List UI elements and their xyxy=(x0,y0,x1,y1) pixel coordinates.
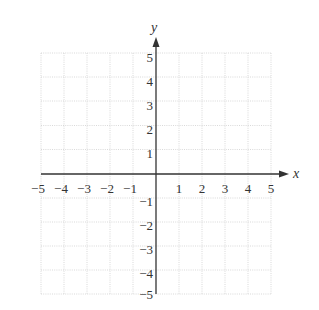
x-axis-arrow-icon xyxy=(279,171,289,178)
x-tick: 5 xyxy=(268,181,275,196)
y-tick: 2 xyxy=(147,122,154,137)
y-axis-label: y xyxy=(149,20,158,35)
x-tick: −4 xyxy=(54,181,68,196)
x-tick: −2 xyxy=(100,181,114,196)
y-axis-arrow-icon xyxy=(153,37,160,47)
x-tick: −1 xyxy=(123,181,137,196)
x-tick: 4 xyxy=(245,181,252,196)
y-tick: −4 xyxy=(139,266,153,281)
x-axis-label: x xyxy=(292,166,300,181)
y-tick-labels: 5 4 3 2 1 −1 −2 −3 −4 −5 xyxy=(139,50,153,302)
x-tick: 2 xyxy=(199,181,206,196)
x-tick: 3 xyxy=(222,181,229,196)
y-tick: −2 xyxy=(139,218,153,233)
x-tick: −3 xyxy=(77,181,91,196)
x-tick: 1 xyxy=(176,181,183,196)
y-tick: 4 xyxy=(147,74,154,89)
y-tick: −1 xyxy=(139,194,153,209)
y-tick: −5 xyxy=(139,287,153,302)
y-tick: 1 xyxy=(147,146,154,161)
y-tick: 3 xyxy=(147,98,154,113)
y-tick: −3 xyxy=(139,242,153,257)
coordinate-plane: x y −5 −4 −3 −2 −1 1 2 3 4 5 5 4 3 2 1 −… xyxy=(0,0,319,310)
x-tick: −5 xyxy=(31,181,45,196)
y-tick: 5 xyxy=(147,50,154,65)
